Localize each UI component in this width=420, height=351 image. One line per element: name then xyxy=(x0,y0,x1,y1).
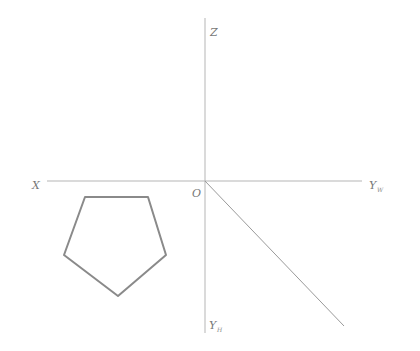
pentagon-shape xyxy=(64,197,166,296)
yw-axis-subscript: W xyxy=(377,186,384,193)
origin-label: O xyxy=(192,187,201,200)
auxiliary-diagonal-line xyxy=(205,181,344,326)
x-axis-label: X xyxy=(31,179,41,192)
z-axis-label: Z xyxy=(209,26,218,39)
yh-axis-subscript: H xyxy=(216,326,223,333)
projection-diagram: Z X O Y W Y H xyxy=(0,0,420,351)
